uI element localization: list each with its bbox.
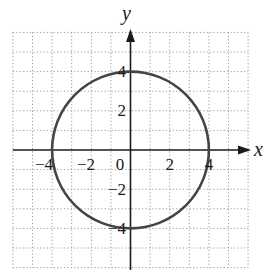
x-tick-label: 2	[165, 155, 174, 174]
y-axis-label: y	[120, 2, 131, 25]
coordinate-plane: x y −4 −2 0 2 4 4 2 −2 −4	[0, 0, 270, 280]
x-axis-arrow-icon	[238, 146, 251, 155]
x-tick-label: −4	[35, 155, 54, 174]
y-tick-label: −2	[108, 180, 126, 199]
x-axis-label: x	[253, 138, 263, 160]
y-tick-label: 4	[118, 62, 127, 81]
y-tick-label: 2	[118, 101, 127, 120]
x-tick-label: −2	[77, 155, 95, 174]
y-tick-label: −4	[108, 219, 127, 238]
y-axis-arrow-icon	[126, 29, 135, 42]
axes	[13, 29, 251, 270]
x-tick-label: 0	[116, 155, 125, 174]
x-tick-label: 4	[205, 155, 214, 174]
circle-graph-figure: x y −4 −2 0 2 4 4 2 −2 −4	[0, 0, 270, 280]
